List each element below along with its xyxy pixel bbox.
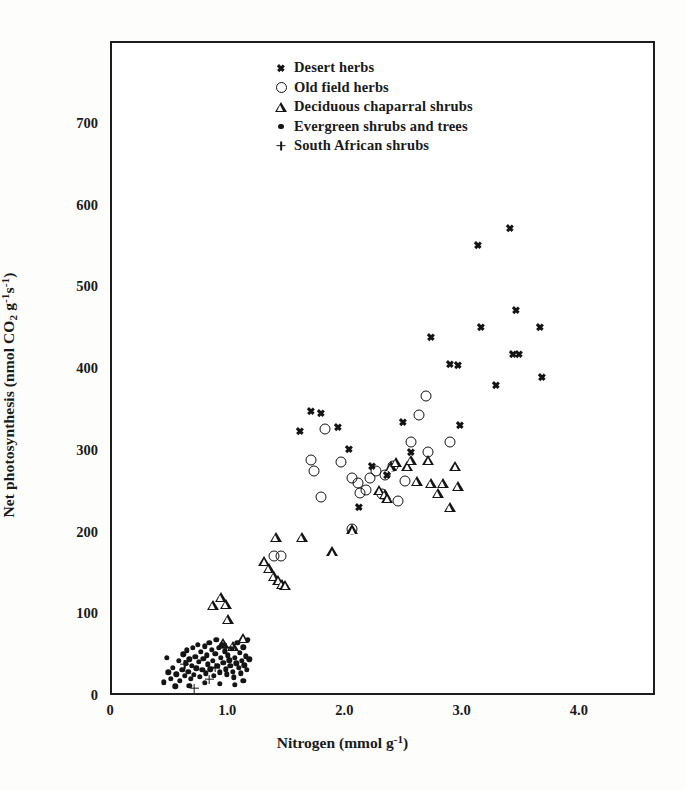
data-point-triangle-marker (390, 457, 402, 467)
data-point-dot-marker (244, 667, 249, 672)
x-marker (512, 306, 520, 314)
circle-marker (276, 82, 287, 93)
circle-marker (414, 409, 425, 420)
circle-marker (361, 485, 372, 496)
y-axis-title-part2: g (0, 303, 17, 315)
triangle-marker (411, 476, 423, 486)
dot-marker (217, 681, 222, 686)
dot-marker (166, 670, 171, 675)
triangle-marker (381, 493, 393, 503)
triangle-marker (437, 478, 449, 488)
triangle-marker (432, 488, 444, 498)
data-point-circle-marker (361, 485, 372, 496)
dot-marker (241, 644, 246, 649)
data-point-dot-marker (197, 674, 202, 679)
x-marker (399, 418, 407, 426)
data-point-dot-marker (166, 670, 171, 675)
dot-marker (245, 637, 250, 642)
data-point-dot-marker (231, 675, 236, 680)
x-axis-title: Nitrogen (mmol g-1) (0, 733, 685, 752)
data-point-circle-marker (315, 491, 326, 502)
data-point-triangle-marker (346, 524, 358, 534)
data-point-dot-marker (245, 637, 250, 642)
data-point-dot-marker (217, 681, 222, 686)
dot-marker (241, 678, 246, 683)
plus-marker (190, 684, 199, 693)
dot-marker (224, 671, 229, 676)
data-point-triangle-marker (270, 532, 282, 542)
x-marker (515, 350, 523, 358)
data-point-x-marker (399, 418, 407, 426)
triangle-marker (390, 457, 402, 467)
x-marker (474, 241, 482, 249)
y-tick-label: 700 (0, 114, 98, 131)
x-tick-label: 4.0 (570, 702, 588, 719)
dot-marker (184, 648, 189, 653)
triangle-marker (452, 481, 464, 491)
data-point-dot-marker (227, 658, 232, 663)
data-point-dot-marker (221, 660, 226, 665)
circle-marker (444, 436, 455, 447)
dot-marker (177, 678, 182, 683)
y-axis-title-sup1: -1 (0, 294, 11, 304)
data-point-triangle-marker (381, 493, 393, 503)
data-point-triangle-marker (444, 502, 456, 512)
legend-item: Old field herbs (268, 78, 473, 98)
data-point-dot-marker (198, 649, 203, 654)
x-marker (446, 360, 454, 368)
data-point-x-marker (538, 373, 546, 381)
dot-marker (168, 676, 173, 681)
x-marker (345, 445, 353, 453)
data-point-triangle-marker (452, 481, 464, 491)
y-tick-label: 600 (0, 196, 98, 213)
data-point-dot-marker (232, 655, 237, 660)
circle-marker (308, 465, 319, 476)
data-point-dot-marker (177, 678, 182, 683)
dot-marker (237, 650, 242, 655)
triangle-marker (222, 614, 234, 624)
x-axis-title-sup: -1 (394, 733, 403, 745)
data-point-dot-marker (228, 663, 233, 668)
data-point-x-marker (427, 333, 435, 341)
dot-marker (194, 666, 199, 671)
data-point-x-marker (515, 350, 523, 358)
data-point-dot-marker (204, 653, 209, 658)
triangle-marker (449, 461, 461, 471)
triangle-marker (405, 455, 417, 465)
data-point-plus-marker (205, 675, 214, 684)
plus-marker (277, 141, 286, 150)
y-tick-label: 100 (0, 605, 98, 622)
data-point-x-marker (506, 224, 514, 232)
y-axis-title-sub: 2 (7, 315, 19, 321)
data-point-triangle-marker (279, 580, 291, 590)
y-tick-label: 0 (0, 687, 98, 704)
x-marker (296, 427, 304, 435)
dot-marker (174, 671, 179, 676)
triangle-marker (444, 502, 456, 512)
x-axis-title-prefix: Nitrogen (mmol g (277, 734, 394, 751)
triangle-marker (296, 532, 308, 542)
circle-marker (392, 495, 403, 506)
y-axis-title-part1: Net photosynthesis (nmol CO (0, 321, 17, 518)
triangle-marker (275, 102, 287, 112)
data-point-triangle-marker (449, 461, 461, 471)
x-marker (538, 373, 546, 381)
data-point-circle-marker (400, 476, 411, 487)
data-point-x-marker (512, 306, 520, 314)
data-point-plus-marker (190, 684, 199, 693)
data-point-triangle-marker (222, 614, 234, 624)
x-marker (456, 421, 464, 429)
x-marker (278, 64, 285, 71)
data-point-dot-marker (235, 640, 240, 645)
data-point-dot-marker (168, 676, 173, 681)
x-marker (477, 323, 485, 331)
data-point-triangle-marker (422, 455, 434, 465)
scatter-plot-figure: Net photosynthesis (nmol CO2 g-1s-1) Nit… (0, 0, 685, 790)
dot-marker (164, 655, 169, 660)
legend-item: Evergreen shrubs and trees (268, 117, 473, 137)
circle-marker (320, 423, 331, 434)
data-point-x-marker (474, 241, 482, 249)
dot-marker (197, 674, 202, 679)
data-point-circle-marker (414, 409, 425, 420)
data-point-circle-marker (308, 465, 319, 476)
